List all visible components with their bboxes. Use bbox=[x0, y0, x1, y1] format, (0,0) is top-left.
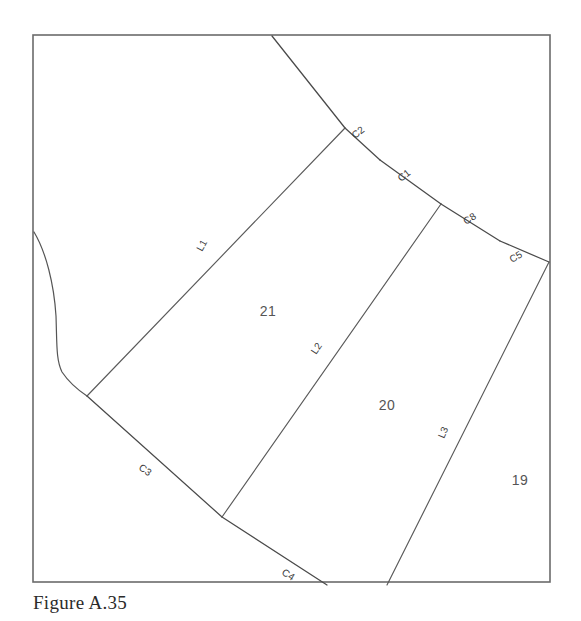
parcel-label-19: 19 bbox=[512, 472, 528, 488]
figure-caption: Figure A.35 bbox=[33, 592, 127, 614]
figure-frame-border bbox=[33, 35, 550, 582]
parcel-label-20: 20 bbox=[379, 397, 395, 413]
figure-container: C2 C1 C8 C5 C3 C4 L1 L2 L3 21 20 19 Figu… bbox=[0, 0, 581, 621]
parcel-label-21: 21 bbox=[260, 303, 276, 319]
plat-diagram: C2 C1 C8 C5 C3 C4 L1 L2 L3 21 20 19 bbox=[0, 0, 581, 621]
